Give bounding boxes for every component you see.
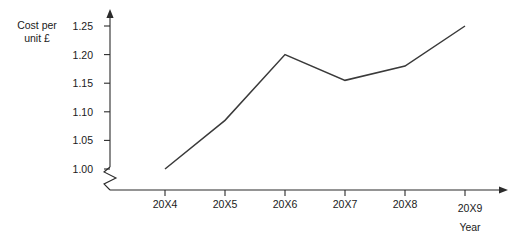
x-axis-title: Year bbox=[459, 221, 481, 233]
y-tick-label-1.05: 1.05 bbox=[73, 134, 94, 146]
line-chart: Cost per unit £ 1.25 1.20 1.15 1.10 1.05… bbox=[0, 0, 521, 237]
y-axis-arrow-icon bbox=[106, 9, 113, 18]
chart-canvas: Cost per unit £ 1.25 1.20 1.15 1.10 1.05… bbox=[0, 0, 521, 237]
y-tick-label-1.15: 1.15 bbox=[73, 77, 94, 89]
x-tick-label-20X6: 20X6 bbox=[273, 198, 298, 210]
y-tick-label-1.00: 1.00 bbox=[73, 163, 94, 175]
y-axis-title-line-1: Cost per bbox=[17, 19, 57, 31]
x-tick-label-20X9: 20X9 bbox=[458, 202, 483, 214]
x-tick-label-20X7: 20X7 bbox=[333, 198, 358, 210]
y-axis-break-icon bbox=[104, 167, 116, 190]
y-tick-label-1.20: 1.20 bbox=[73, 49, 94, 61]
x-tick-label-20X8: 20X8 bbox=[393, 198, 418, 210]
x-tick-label-20X4: 20X4 bbox=[153, 198, 178, 210]
cost-per-unit-series-line bbox=[165, 26, 465, 169]
x-tick-label-20X5: 20X5 bbox=[213, 198, 238, 210]
y-tick-label-1.10: 1.10 bbox=[73, 106, 94, 118]
x-axis-arrow-icon bbox=[499, 186, 508, 193]
y-tick-label-1.25: 1.25 bbox=[73, 20, 94, 32]
y-axis-title-line-2: unit £ bbox=[24, 32, 50, 44]
